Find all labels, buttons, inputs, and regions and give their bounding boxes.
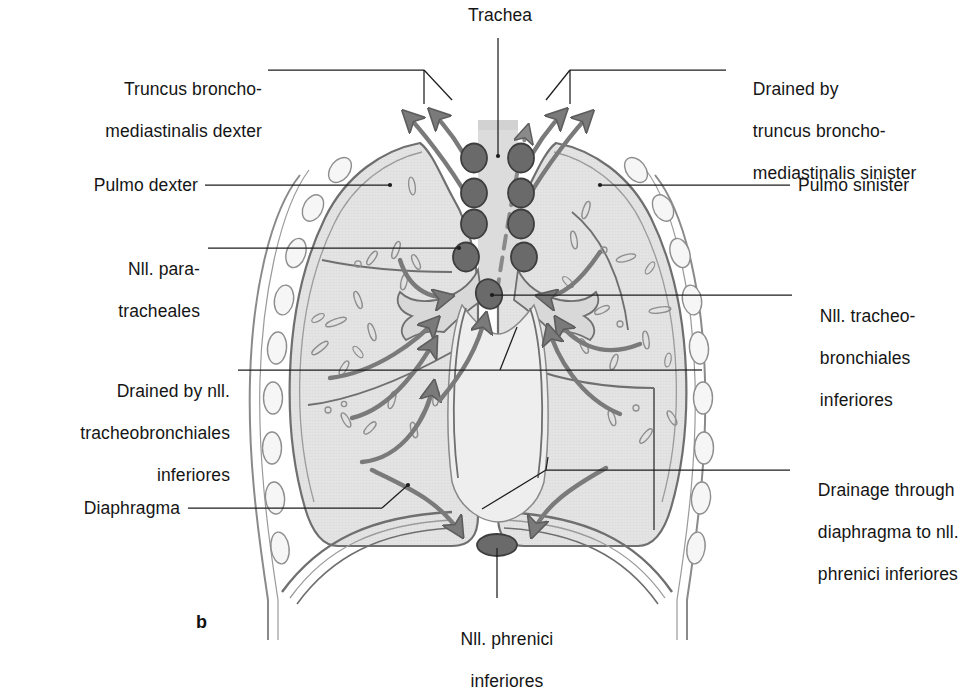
label-line: bronchiales	[820, 348, 911, 368]
label-nll-paratracheales: Nll. para- tracheales	[30, 238, 200, 343]
label-line: tracheales	[118, 301, 200, 321]
label-line: inferiores	[157, 465, 230, 485]
label-line: truncus broncho-	[753, 121, 886, 141]
label-line: inferiores	[470, 671, 543, 691]
label-drained-by-nll-tracheobronchiales-inferiores: Drained by nll. tracheobronchiales infer…	[10, 360, 230, 507]
label-nll-tracheobronchiales-inferiores: Nll. tracheo- bronchiales inferiores	[800, 285, 952, 432]
label-line: Nll. phrenici	[461, 629, 554, 649]
label-nll-phrenici-inferiores: Nll. phrenici inferiores	[422, 608, 572, 691]
label-truncus-bronchomediastinalis-dexter: Truncus broncho- mediastinalis dexter	[30, 58, 262, 163]
label-line: inferiores	[820, 390, 893, 410]
label-line: diaphragma to nll.	[818, 522, 959, 542]
label-line: Drainage through	[818, 480, 955, 500]
label-pulmo-sinister: Pulmo sinister	[798, 175, 958, 196]
label-pulmo-dexter: Pulmo dexter	[30, 175, 198, 196]
label-line: tracheobronchiales	[80, 423, 230, 443]
label-trachea: Trachea	[430, 5, 570, 26]
panel-letter: b	[196, 612, 207, 633]
label-line: phrenici inferiores	[818, 564, 958, 584]
label-line: mediastinalis dexter	[105, 121, 262, 141]
label-line: Nll. tracheo-	[820, 306, 916, 326]
label-line: Drained by	[753, 79, 839, 99]
label-line: Truncus broncho-	[124, 79, 262, 99]
label-line: Drained by nll.	[117, 381, 230, 401]
label-diaphragma: Diaphragma	[20, 498, 180, 519]
label-drainage-through-diaphragma: Drainage through diaphragma to nll. phre…	[798, 459, 956, 606]
label-line: Nll. para-	[128, 259, 200, 279]
